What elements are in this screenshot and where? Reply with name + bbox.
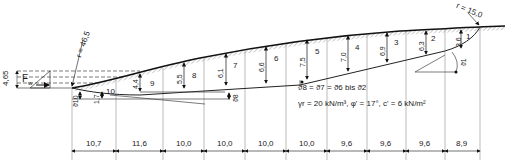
slice-label-1: 1 [466,33,470,41]
slice-label-5: 5 [315,48,319,56]
water-force-label: Fw [22,74,32,86]
slice-height-9: 4,4 [132,79,139,89]
slice-height-5: 7,5 [299,57,306,67]
dimension-label-5: 10,0 [258,140,274,148]
dimension-label-3: 10,0 [176,140,192,148]
diagram-canvas [0,0,515,160]
angle-pivot-dot [455,71,458,74]
slice-height-1: 3,6 [455,37,462,47]
slice-height-7: 6,1 [217,68,224,78]
soil-parameters-note: γr = 20 kN/m³, φ' = 17°, c' = 6 kN/m² [298,100,426,108]
dimension-label-1: 10,7 [86,140,102,148]
slice-label-10: 10 [106,88,115,96]
slice-height-2: 6,3 [418,41,425,51]
water-height-label: 4,65 [2,70,10,86]
slice-label-8: 8 [192,72,196,80]
slice-label-6: 6 [274,55,278,63]
slice-height-10: 1,7 [93,94,100,104]
slice-label-3: 3 [394,39,398,47]
dimension-label-2: 11,6 [132,140,147,148]
dimension-label-8: 9,6 [380,140,391,148]
angle-equality-note: ϑ8 = ϑ7 = ϑ6 bis ϑ2 [298,84,366,92]
slope-stability-diagram: r = 15,0 r = 46,5 4,65 Fw 1 2 3 4 5 6 7 … [0,0,515,160]
dimension-label-9: 9,6 [419,140,430,148]
angle-theta8-label: ϑ8 [232,94,239,102]
dimension-label-6: 10,0 [299,140,315,148]
angle-theta1-label: ϑ1 [460,58,467,66]
slice-height-4: 7,0 [340,52,347,62]
dimension-label-10: 8,9 [456,140,467,148]
slice-height-6: 6,6 [258,62,265,72]
slice-label-7: 7 [233,62,237,70]
dimension-label-4: 10,0 [217,140,233,148]
slice-label-4: 4 [355,44,359,52]
dimension-label-7: 9,6 [341,140,352,148]
angle-theta10-label: ϑ10 [72,95,79,107]
slice-label-9: 9 [150,80,154,88]
water-force-subscript: w [28,80,32,86]
slice-height-3: 6,9 [379,46,386,56]
slice-label-2: 2 [431,35,435,43]
slice-height-8: 5,5 [176,74,183,84]
